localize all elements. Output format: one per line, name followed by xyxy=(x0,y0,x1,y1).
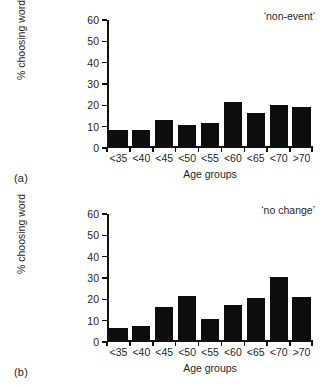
panel-a-y-axis-label: % choosing word xyxy=(15,0,27,99)
panel-b-x-tick-label: <35 xyxy=(110,346,128,358)
panel-b-y-tick-label: 50 xyxy=(87,230,99,241)
panel-b-x-tick-label: <50 xyxy=(178,346,196,358)
bar xyxy=(155,120,173,146)
panel-b-x-tick-label: <60 xyxy=(224,346,242,358)
panel-b-x-axis-spine xyxy=(107,340,313,342)
panel-b-x-tick-label: <40 xyxy=(132,346,150,358)
panel-b-y-tick-label: 60 xyxy=(87,209,99,220)
panel-a-y-tick-label: 60 xyxy=(87,15,99,26)
panel-b-y-tick-label: 10 xyxy=(87,315,99,326)
panel-b-plot-area: 0102030405060 xyxy=(107,214,313,342)
bar xyxy=(292,297,310,340)
bar xyxy=(270,105,288,146)
bar xyxy=(201,123,219,146)
panel-b: (b) ‘no change’ % choosing word 01020304… xyxy=(0,194,327,388)
panel-a-y-tick-label: 10 xyxy=(87,121,99,132)
bar xyxy=(178,296,196,340)
panel-b-x-axis-label: Age groups xyxy=(107,362,313,374)
bar xyxy=(247,298,265,340)
panel-a: (a) ‘non-event’ % choosing word 01020304… xyxy=(0,0,327,194)
panel-b-y-tick-label: 0 xyxy=(93,337,99,348)
panel-b-y-tick-label: 20 xyxy=(87,294,99,305)
panel-b-x-tick-label: <70 xyxy=(270,346,288,358)
panel-a-x-tick-label: <35 xyxy=(110,152,128,164)
panel-a-x-tick-label: <50 xyxy=(178,152,196,164)
panel-b-x-tick-label: <45 xyxy=(155,346,173,358)
panel-a-x-axis-spine xyxy=(107,146,313,148)
panel-b-y-axis-label: % choosing word xyxy=(15,175,27,293)
bar xyxy=(270,277,288,340)
panel-a-x-tick-label: >70 xyxy=(293,152,311,164)
panel-b-x-tick-label: <55 xyxy=(201,346,219,358)
panel-b-y-tick-label: 40 xyxy=(87,251,99,262)
panel-a-x-tick-label: <60 xyxy=(224,152,242,164)
panel-a-y-tick-label: 20 xyxy=(87,100,99,111)
panel-a-x-tick-labels: <35<40<45<50<55<60<65<70>70 xyxy=(107,152,317,166)
panel-a-x-tick-label: <45 xyxy=(155,152,173,164)
bar xyxy=(109,328,127,341)
panel-a-x-tick-label: <65 xyxy=(247,152,265,164)
bar xyxy=(155,307,173,341)
bar xyxy=(132,326,150,341)
panel-b-bars xyxy=(107,214,313,340)
panel-a-y-tick-label: 40 xyxy=(87,57,99,68)
panel-a-y-tick-label: 30 xyxy=(87,79,99,90)
panel-a-y-tick-label: 0 xyxy=(93,143,99,154)
panel-b-x-tick-labels: <35<40<45<50<55<60<65<70>70 xyxy=(107,346,317,360)
panel-b-x-tick-label: >70 xyxy=(293,346,311,358)
bar xyxy=(292,107,310,146)
bar xyxy=(201,319,219,340)
panel-a-x-tick-label: <70 xyxy=(270,152,288,164)
panel-a-y-tick-label: 50 xyxy=(87,36,99,47)
bar xyxy=(224,305,242,341)
bar xyxy=(132,130,150,147)
panel-b-x-tick-label: <65 xyxy=(247,346,265,358)
figure-two-bar-charts: (a) ‘non-event’ % choosing word 01020304… xyxy=(0,0,327,388)
panel-letter-b: (b) xyxy=(14,366,28,378)
panel-a-x-tick-label: <40 xyxy=(132,152,150,164)
panel-b-y-tick-label: 30 xyxy=(87,273,99,284)
panel-a-bars xyxy=(107,20,313,146)
bar xyxy=(109,130,127,147)
bar xyxy=(247,113,265,147)
panel-a-x-axis-label: Age groups xyxy=(107,168,313,180)
bar xyxy=(224,102,242,146)
bar xyxy=(178,125,196,146)
panel-a-plot-area: 0102030405060 xyxy=(107,20,313,148)
panel-a-x-tick-label: <55 xyxy=(201,152,219,164)
